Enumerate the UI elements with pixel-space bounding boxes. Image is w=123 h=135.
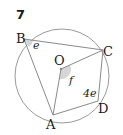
question-number: 7	[16, 7, 25, 22]
angle-label-f: f	[68, 74, 75, 87]
line-OC	[61, 50, 103, 69]
angle-label-4e: 4e	[82, 87, 97, 100]
center-point	[60, 68, 62, 70]
line-OA	[53, 69, 61, 115]
label-C: C	[103, 44, 113, 59]
label-A: A	[45, 117, 56, 132]
circle-theorem-diagram: 7 B C O D A e f 4e	[0, 0, 123, 135]
label-D: D	[98, 101, 108, 116]
label-B: B	[16, 31, 26, 46]
angle-label-e: e	[33, 39, 40, 52]
label-O: O	[54, 53, 65, 68]
